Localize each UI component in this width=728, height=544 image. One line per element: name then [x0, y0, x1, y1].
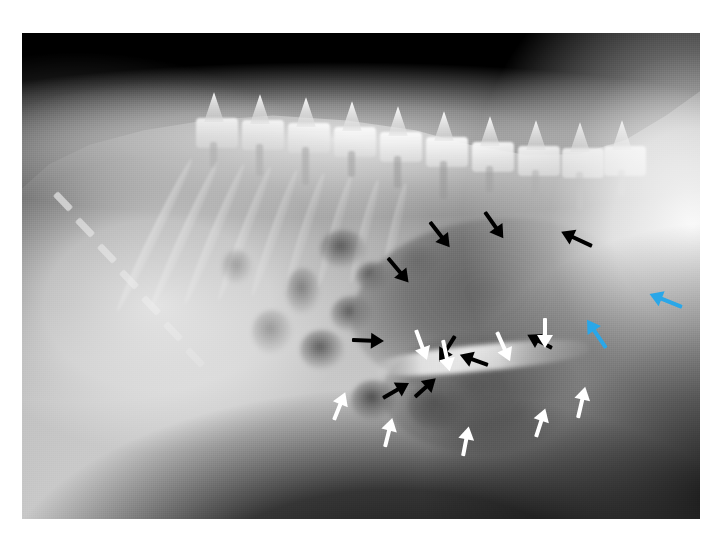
white-annotation-arrow: [376, 418, 400, 450]
white-annotation-arrow: [536, 318, 554, 346]
white-annotation-arrow: [489, 328, 518, 363]
arrow-shaft: [483, 211, 498, 230]
arrow-head: [457, 347, 475, 366]
arrow-shaft: [659, 296, 683, 309]
black-annotation-arrow: [559, 224, 596, 254]
white-annotation-arrow: [434, 338, 458, 371]
arrow-head: [489, 223, 510, 243]
black-annotation-arrow: [478, 207, 510, 242]
white-annotation-arrow: [569, 387, 593, 420]
arrow-shaft: [534, 418, 544, 437]
arrow-shaft: [461, 437, 469, 456]
arrow-head: [415, 345, 434, 363]
white-annotation-arrow: [326, 391, 353, 424]
arrow-shaft: [543, 318, 547, 337]
arrow-head: [537, 335, 553, 348]
arrow-shaft: [352, 338, 373, 343]
arrow-shaft: [332, 402, 343, 421]
arrow-head: [394, 267, 415, 287]
screenshot-root: [0, 0, 728, 544]
blue-annotation-arrow: [648, 286, 685, 315]
black-annotation-arrow: [423, 216, 456, 251]
black-annotation-arrow: [381, 252, 414, 287]
arrow-head: [432, 346, 452, 366]
arrow-head: [421, 372, 441, 393]
arrow-head: [574, 385, 593, 401]
arrow-head: [524, 328, 543, 348]
arrow-shaft: [428, 221, 444, 240]
arrow-shaft: [591, 328, 607, 349]
arrow-shaft: [576, 397, 585, 418]
arrow-head: [371, 333, 385, 349]
arrow-head: [435, 232, 456, 252]
white-annotation-arrow: [527, 408, 553, 440]
arrow-head: [439, 357, 457, 373]
arrow-shaft: [382, 387, 400, 400]
arrow-head: [558, 224, 577, 244]
arrow-shaft: [414, 329, 425, 350]
arrow-shaft: [383, 428, 391, 447]
arrow-head: [381, 416, 400, 432]
black-annotation-arrow: [379, 376, 412, 406]
arrow-head: [647, 286, 665, 306]
black-annotation-arrow: [409, 373, 440, 404]
arrow-head: [534, 406, 553, 423]
arrow-head: [497, 346, 517, 364]
blue-annotation-arrow: [581, 316, 614, 353]
arrow-shaft: [495, 331, 507, 352]
arrow-shaft: [414, 384, 429, 398]
radiograph-image: [22, 33, 700, 519]
arrow-shaft: [469, 357, 488, 367]
white-annotation-arrow: [454, 427, 477, 458]
arrow-shaft: [386, 257, 403, 276]
arrow-shaft: [536, 338, 553, 350]
arrow-head: [458, 425, 476, 441]
black-annotation-arrow: [433, 331, 463, 364]
black-annotation-arrow: [352, 331, 383, 350]
arrow-head: [580, 315, 601, 335]
black-annotation-arrow: [459, 347, 491, 373]
arrow-shaft: [443, 335, 456, 353]
annotation-overlay: [22, 33, 700, 519]
black-annotation-arrow: [525, 328, 556, 356]
white-annotation-arrow: [408, 327, 435, 361]
arrow-shaft: [441, 340, 449, 361]
arrow-head: [333, 389, 353, 407]
arrow-shaft: [570, 234, 593, 247]
arrow-head: [394, 376, 413, 396]
